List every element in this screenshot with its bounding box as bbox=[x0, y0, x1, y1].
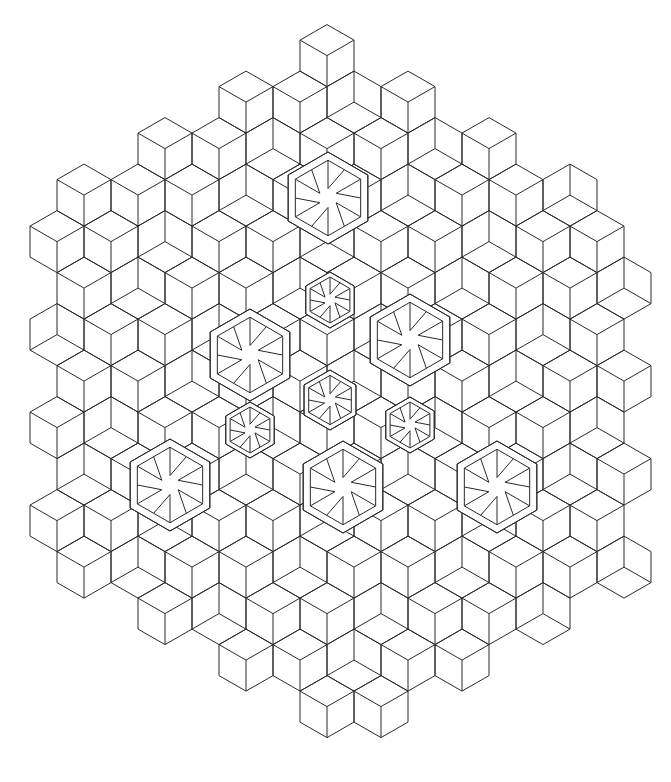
hex-star-motif bbox=[210, 309, 290, 401]
hex-star-motif bbox=[457, 441, 537, 533]
hex-star-motif bbox=[386, 397, 434, 453]
hex-star-motif bbox=[304, 370, 356, 430]
hex-star-motif bbox=[306, 272, 354, 328]
hex-star-motif bbox=[226, 402, 274, 458]
hex-star-motif bbox=[370, 294, 450, 386]
hex-star-motif bbox=[303, 441, 383, 533]
isometric-pattern bbox=[0, 0, 671, 782]
pattern-svg bbox=[0, 0, 671, 782]
hex-star-motif bbox=[130, 439, 210, 531]
